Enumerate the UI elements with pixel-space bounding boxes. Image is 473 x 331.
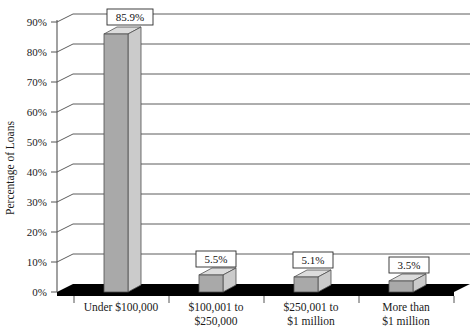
- data-label-3-text: 5.1%: [302, 254, 325, 266]
- category-label-1-line1: Under $100,000: [84, 301, 159, 314]
- category-label-3-line1: $250,001 to: [284, 301, 339, 314]
- data-label-1-text: 85.9%: [116, 11, 144, 23]
- x-category-labels: Under $100,000 $100,001 to $250,000 $250…: [84, 301, 430, 328]
- category-label-3-line2: $1 million: [287, 315, 335, 327]
- y-tick-label-20: 20%: [27, 226, 47, 238]
- y-tick-label-60: 60%: [27, 106, 47, 118]
- y-tick-labels: 90% 80% 70% 60% 50% 40% 30% 20% 10% 0%: [27, 16, 47, 298]
- bar-chart: 90% 80% 70% 60% 50% 40% 30% 20% 10% 0% P…: [0, 0, 473, 331]
- category-label-4-line1: More than: [382, 301, 430, 313]
- y-tick-label-40: 40%: [27, 166, 47, 178]
- bar-3-front: [294, 277, 318, 292]
- y-tick-label-80: 80%: [27, 46, 47, 58]
- y-tick-label-0: 0%: [32, 286, 47, 298]
- data-label-2-text: 5.5%: [205, 253, 228, 265]
- floor-front-face: [57, 292, 454, 296]
- y-tick-label-30: 30%: [27, 196, 47, 208]
- y-tick-label-70: 70%: [27, 76, 47, 88]
- data-label-1: 85.9%: [107, 9, 153, 25]
- bar-1-side: [128, 27, 141, 292]
- bar-2-front: [199, 275, 223, 292]
- category-label-2-line1: $100,001 to: [189, 301, 244, 314]
- category-label-2-line2: $250,000: [194, 315, 237, 328]
- chart-container: 90% 80% 70% 60% 50% 40% 30% 20% 10% 0% P…: [0, 0, 473, 331]
- bar-4-front: [389, 281, 413, 292]
- y-tick-label-50: 50%: [27, 136, 47, 148]
- data-label-3: 5.1%: [293, 252, 333, 268]
- data-label-4: 3.5%: [389, 257, 429, 273]
- data-label-4-text: 3.5%: [398, 259, 421, 271]
- y-tick-label-90: 90%: [27, 16, 47, 28]
- bar-group-2[interactable]: [199, 268, 236, 292]
- y-tick-label-10: 10%: [27, 256, 47, 268]
- bar-1-front: [104, 34, 128, 292]
- y-axis-title: Percentage of Loans: [4, 121, 17, 215]
- category-label-4-line2: $1 million: [382, 315, 430, 327]
- y-tick-marks: [51, 22, 57, 292]
- data-label-2: 5.5%: [196, 251, 236, 267]
- bar-group-1[interactable]: [104, 27, 141, 292]
